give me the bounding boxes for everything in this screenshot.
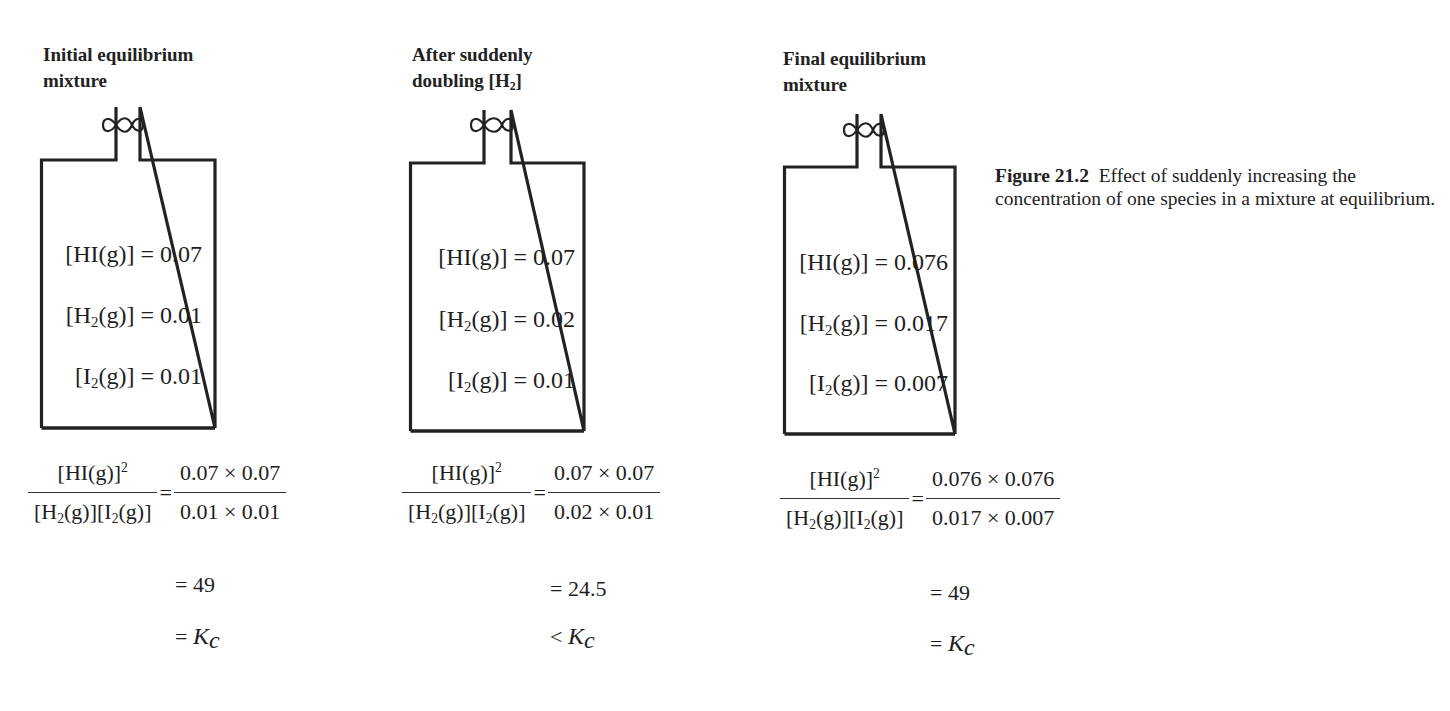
stopcock-valve-icon <box>40 106 220 146</box>
hi-label: [HI(g)] = <box>799 249 894 275</box>
concentration-i2: [I2(g)] = 0.01 <box>415 367 575 394</box>
numeric-fraction: 0.07 × 0.07 0.02 × 0.01 <box>548 460 660 525</box>
g-close: (g)] <box>492 499 525 524</box>
equals-sign: = <box>531 480 547 506</box>
g-close: (g)] <box>870 505 903 530</box>
i2-value: 0.01 <box>533 367 575 393</box>
denominator: [H2(g)][I2(g)] <box>780 498 909 531</box>
hi-label: [HI(g)] = <box>65 241 160 267</box>
title-line-2: doubling [H2] <box>412 68 533 94</box>
numerator: [HI(g)]2 <box>426 460 508 492</box>
numeric-denominator: 0.02 × 0.01 <box>548 492 660 525</box>
i2-label-end: (g)] = <box>98 363 160 389</box>
i2-label: [I <box>448 367 464 393</box>
i2-value: 0.007 <box>894 370 948 396</box>
equals-sign: = <box>157 480 173 506</box>
exponent: 2 <box>121 460 128 475</box>
numerator: [HI(g)]2 <box>52 460 134 492</box>
h2-label-end: (g)] = <box>832 310 894 336</box>
numeric-fraction: 0.076 × 0.076 0.017 × 0.007 <box>926 466 1060 531</box>
h2-value: 0.02 <box>533 306 575 332</box>
numerator: [HI(g)]2 <box>804 466 886 498</box>
g-close: (g)] <box>816 505 849 530</box>
kc-subscript: c <box>209 627 220 653</box>
reaction-quotient-expression: [HI(g)]2 [H2(g)][I2(g)] = 0.07 × 0.07 0.… <box>402 460 660 525</box>
comparison-symbol: < <box>550 624 562 649</box>
symbolic-fraction: [HI(g)]2 [H2(g)][I2(g)] <box>28 460 157 525</box>
subscript: 2 <box>809 517 816 532</box>
i2-label-end: (g)] = <box>471 367 533 393</box>
h2-value: 0.01 <box>160 302 202 328</box>
kc-subscript: c <box>584 627 595 653</box>
hi-value: 0.07 <box>160 241 202 267</box>
kc-comparison: = Kc <box>175 623 220 650</box>
g-close: (g)] <box>64 499 97 524</box>
h2-label: [H <box>66 302 91 328</box>
i2-term: [I <box>97 499 112 524</box>
figure-caption: Figure 21.2 Effect of suddenly increasin… <box>995 164 1450 210</box>
i2-term: [I <box>849 505 864 530</box>
hi-value: 0.07 <box>533 244 575 270</box>
numeric-fraction: 0.07 × 0.07 0.01 × 0.01 <box>174 460 286 525</box>
concentration-hi: [HI(g)] = 0.07 <box>415 244 575 271</box>
i2-label-end: (g)] = <box>832 370 894 396</box>
i2-term: [I <box>471 499 486 524</box>
panel-title: Initial equilibrium mixture <box>43 42 193 94</box>
title-line-1: Final equilibrium <box>783 46 926 72</box>
g-close: (g)] <box>438 499 471 524</box>
kc-comparison: < Kc <box>550 623 595 650</box>
numeric-numerator: 0.076 × 0.076 <box>926 466 1060 498</box>
g-close: (g)] <box>118 499 151 524</box>
comparison-symbol: = <box>930 631 942 656</box>
denominator: [H2(g)][I2(g)] <box>28 492 157 525</box>
numeric-denominator: 0.01 × 0.01 <box>174 492 286 525</box>
h2-label: [H <box>800 310 825 336</box>
i2-label: [I <box>809 370 825 396</box>
numerator-label: [HI(g)] <box>58 460 122 485</box>
kc-subscript: c <box>964 634 975 660</box>
concentration-i2: [I2(g)] = 0.01 <box>50 363 202 390</box>
symbolic-fraction: [HI(g)]2 [H2(g)][I2(g)] <box>780 466 909 531</box>
denominator: [H2(g)][I2(g)] <box>402 492 531 525</box>
numeric-numerator: 0.07 × 0.07 <box>548 460 660 492</box>
h2-label-end: (g)] = <box>98 302 160 328</box>
concentration-i2: [I2(g)] = 0.007 <box>786 370 948 397</box>
symbolic-fraction: [HI(g)]2 [H2(g)][I2(g)] <box>402 460 531 525</box>
comparison-symbol: = <box>175 624 187 649</box>
numerator-label: [HI(g)] <box>432 460 496 485</box>
concentration-h2: [H2(g)] = 0.017 <box>786 310 948 337</box>
kc-symbol: K <box>193 623 209 649</box>
subscript: 2 <box>57 511 64 526</box>
concentration-h2: [H2(g)] = 0.02 <box>415 306 575 333</box>
h2-term: [H <box>786 505 809 530</box>
kc-symbol: K <box>568 623 584 649</box>
panel-title: After suddenly doubling [H2] <box>412 42 533 94</box>
h2-value: 0.017 <box>894 310 948 336</box>
result-value: = 49 <box>175 572 215 598</box>
concentration-hi: [HI(g)] = 0.07 <box>50 241 202 268</box>
exponent: 2 <box>873 466 880 481</box>
concentration-hi: [HI(g)] = 0.076 <box>786 249 948 276</box>
numerator-label: [HI(g)] <box>810 466 874 491</box>
stopcock-valve-icon <box>409 109 589 149</box>
h2-label-end: (g)] = <box>471 306 533 332</box>
h2-term: [H <box>408 499 431 524</box>
reaction-quotient-expression: [HI(g)]2 [H2(g)][I2(g)] = 0.076 × 0.076 … <box>780 466 1060 531</box>
i2-label: [I <box>75 363 91 389</box>
equals-sign: = <box>909 486 925 512</box>
title-line-2: mixture <box>783 72 926 98</box>
numeric-numerator: 0.07 × 0.07 <box>174 460 286 492</box>
h2-term: [H <box>34 499 57 524</box>
reaction-quotient-expression: [HI(g)]2 [H2(g)][I2(g)] = 0.07 × 0.07 0.… <box>28 460 286 525</box>
subscript: 2 <box>431 511 438 526</box>
hi-value: 0.076 <box>894 249 948 275</box>
title-bracket: ] <box>516 70 522 91</box>
i2-value: 0.01 <box>160 363 202 389</box>
title-line-1: Initial equilibrium <box>43 42 193 68</box>
stopcock-valve-icon <box>783 113 963 153</box>
kc-comparison: = Kc <box>930 630 975 657</box>
title-line-1: After suddenly <box>412 42 533 68</box>
exponent: 2 <box>495 460 502 475</box>
numeric-denominator: 0.017 × 0.007 <box>926 498 1060 531</box>
hi-label: [HI(g)] = <box>438 244 533 270</box>
